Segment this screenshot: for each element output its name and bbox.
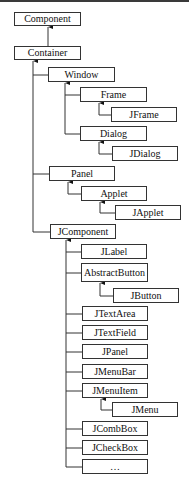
class-node-jmenu: JMenu bbox=[112, 402, 178, 417]
class-label: JMenuItem bbox=[92, 386, 138, 396]
class-label: Window bbox=[64, 70, 98, 80]
class-node-container: Container bbox=[14, 46, 81, 60]
class-node-jmenuitem: JMenuItem bbox=[82, 383, 148, 398]
class-node-component: Component bbox=[14, 12, 81, 26]
class-node-jlabel: JLabel bbox=[81, 244, 147, 259]
class-label: AbstractButton bbox=[84, 268, 145, 278]
class-label: JCombBox bbox=[92, 424, 137, 434]
class-node-japplet: JApplet bbox=[115, 205, 181, 220]
class-label: Applet bbox=[100, 189, 127, 199]
class-node-jcomponent: JComponent bbox=[50, 224, 116, 239]
class-label: Panel bbox=[71, 169, 93, 179]
class-label: JApplet bbox=[132, 208, 163, 218]
class-label: JTextArea bbox=[95, 309, 136, 319]
class-node-jtextfield: JTextField bbox=[82, 325, 148, 340]
class-node-window: Window bbox=[48, 67, 115, 82]
class-label: JCheckBox bbox=[92, 443, 138, 453]
class-label: JComponent bbox=[58, 227, 109, 237]
class-node-jdialog: JDialog bbox=[112, 146, 178, 161]
class-node-jpanel: JPanel bbox=[82, 344, 148, 359]
class-label: … bbox=[110, 462, 120, 472]
class-label: JTextField bbox=[94, 328, 136, 338]
class-label: Container bbox=[28, 48, 67, 58]
class-node-applet: Applet bbox=[81, 186, 147, 201]
class-label: JLabel bbox=[101, 247, 128, 257]
class-node-more: … bbox=[82, 459, 148, 474]
class-label: JFrame bbox=[129, 110, 158, 120]
class-node-jcombbox: JCombBox bbox=[82, 421, 148, 436]
class-label: JButton bbox=[130, 291, 161, 301]
class-label: JDialog bbox=[129, 149, 160, 159]
class-label: Frame bbox=[101, 90, 127, 100]
class-label: Dialog bbox=[100, 129, 127, 139]
class-label: JMenuBar bbox=[94, 367, 136, 377]
class-label: JMenu bbox=[131, 405, 158, 415]
class-node-jmenubar: JMenuBar bbox=[82, 364, 148, 379]
class-node-panel: Panel bbox=[49, 166, 115, 181]
class-node-dialog: Dialog bbox=[80, 126, 147, 141]
class-node-jframe: JFrame bbox=[111, 107, 177, 122]
class-node-jcheckbox: JCheckBox bbox=[82, 440, 148, 455]
class-node-frame: Frame bbox=[80, 87, 147, 102]
class-node-abstractbutton: AbstractButton bbox=[81, 263, 148, 282]
class-node-jbutton: JButton bbox=[113, 288, 179, 303]
class-label: Component bbox=[24, 14, 71, 24]
class-label: JPanel bbox=[102, 347, 128, 357]
class-node-jtextarea: JTextArea bbox=[82, 306, 148, 321]
